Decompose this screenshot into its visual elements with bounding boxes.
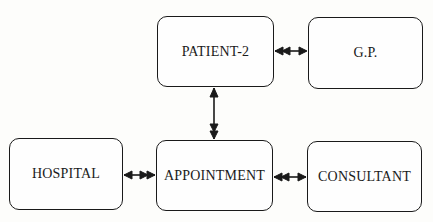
edge-patient2-gp	[275, 47, 307, 55]
node-label: CONSULTANT	[318, 169, 411, 185]
node-label: G.P.	[353, 45, 377, 61]
node-label: PATIENT-2	[182, 44, 250, 60]
edge-appointment-consultant	[274, 173, 306, 181]
node-gp: G.P.	[308, 17, 423, 89]
diagram-canvas: PATIENT-2 G.P. HOSPITAL APPOINTMENT CONS…	[0, 0, 433, 222]
node-label: APPOINTMENT	[164, 168, 265, 184]
node-label: HOSPITAL	[32, 166, 100, 182]
edge-hospital-appointment	[124, 171, 155, 179]
node-hospital: HOSPITAL	[9, 138, 123, 210]
node-patient-2: PATIENT-2	[157, 16, 274, 87]
node-appointment: APPOINTMENT	[156, 140, 273, 211]
node-consultant: CONSULTANT	[307, 141, 422, 212]
edge-patient2-appointment	[210, 88, 218, 139]
